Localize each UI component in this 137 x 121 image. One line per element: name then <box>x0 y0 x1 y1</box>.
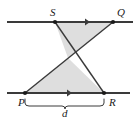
vertex-label-q: Q <box>117 7 125 18</box>
vertex-label-s: S <box>50 7 56 18</box>
vertex-dot-r <box>102 91 106 95</box>
geometry-figure: S Q P R d <box>0 0 137 121</box>
vertex-label-p: P <box>18 97 25 108</box>
vertex-dot-q <box>111 20 115 24</box>
vertex-label-r: R <box>109 97 116 108</box>
upper-triangle-shade <box>55 22 113 58</box>
dimension-label-d: d <box>62 108 68 119</box>
vertex-dot-s <box>53 20 57 24</box>
vertex-dot-p <box>23 91 27 95</box>
